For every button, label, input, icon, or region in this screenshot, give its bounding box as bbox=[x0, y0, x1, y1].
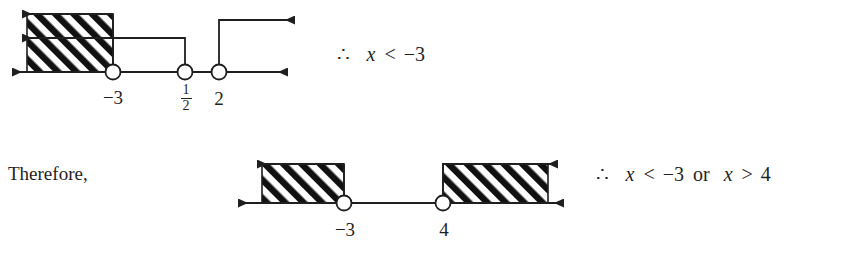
ray-right bbox=[219, 20, 295, 72]
tick-label-4: 4 bbox=[425, 220, 463, 239]
tick-label-2: 2 bbox=[200, 89, 238, 108]
open-circle-4 bbox=[436, 196, 451, 211]
relation-operator-2-left: < bbox=[640, 163, 657, 185]
figure-canvas: −3 1 2 2 ∴ x < −3 Therefore, bbox=[0, 0, 867, 258]
variable-x-2-left: x bbox=[625, 163, 636, 185]
or-connector: or bbox=[689, 163, 714, 185]
fraction-denominator: 2 bbox=[181, 98, 192, 114]
number-line-2-graphic bbox=[230, 152, 580, 222]
shaded-region-left bbox=[27, 14, 113, 72]
open-circle-neg3-2 bbox=[337, 196, 352, 211]
number-line-2 bbox=[230, 152, 580, 222]
shaded-region-right-2 bbox=[443, 164, 548, 203]
bound-value-2-right: 4 bbox=[761, 163, 771, 185]
therefore-symbol-2: ∴ bbox=[596, 163, 610, 185]
relation-operator-2-right: > bbox=[739, 163, 756, 185]
fraction-one-half: 1 2 bbox=[181, 83, 192, 113]
conclusion-row-1: ∴ x < −3 bbox=[337, 44, 425, 64]
number-line-1 bbox=[0, 0, 320, 92]
variable-x-2-right: x bbox=[723, 163, 734, 185]
bound-value-2-left: −3 bbox=[663, 163, 684, 185]
number-line-1-graphic bbox=[0, 0, 320, 92]
relation-operator-1: < bbox=[381, 43, 398, 65]
fraction-numerator: 1 bbox=[181, 83, 192, 98]
tick-label-neg3: −3 bbox=[78, 88, 148, 107]
open-circle-2 bbox=[212, 65, 227, 80]
variable-x-1: x bbox=[366, 43, 377, 65]
therefore-word: Therefore, bbox=[8, 164, 88, 183]
therefore-symbol-1: ∴ bbox=[337, 43, 351, 65]
open-circle-one-half bbox=[178, 65, 193, 80]
conclusion-row-2: ∴ x < −3 or x > 4 bbox=[596, 164, 771, 184]
open-circle-neg3 bbox=[106, 65, 121, 80]
tick-label-neg3-2: −3 bbox=[310, 220, 380, 239]
bound-value-1: −3 bbox=[404, 43, 425, 65]
shaded-region-left-2 bbox=[262, 164, 344, 203]
